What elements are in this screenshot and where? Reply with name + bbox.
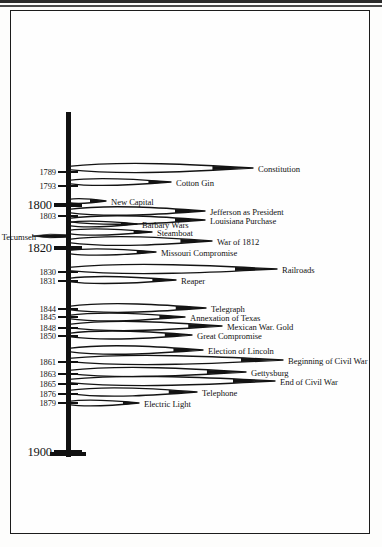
year-tick bbox=[58, 271, 78, 273]
year-label: 1793 bbox=[20, 182, 56, 191]
year-tick bbox=[58, 280, 78, 282]
year-label: 1879 bbox=[20, 399, 56, 408]
event-label: Constitution bbox=[258, 165, 300, 174]
year-tick bbox=[58, 316, 78, 318]
year-tick bbox=[58, 185, 78, 187]
year-label: 1900 bbox=[8, 446, 52, 459]
year-label: 1861 bbox=[20, 358, 56, 367]
year-label: 1831 bbox=[20, 277, 56, 286]
year-tick bbox=[54, 203, 82, 206]
year-tick bbox=[54, 450, 82, 453]
event-label: Telephone bbox=[202, 389, 237, 398]
event-label: Tecumseh bbox=[2, 233, 36, 242]
event-label: Election of Lincoln bbox=[208, 347, 274, 356]
year-label: 1800 bbox=[8, 199, 52, 212]
year-label: 1803 bbox=[20, 212, 56, 221]
event-label: Beginning of Civil War bbox=[288, 357, 367, 366]
year-label: 1845 bbox=[20, 313, 56, 322]
scan-edge-top bbox=[0, 0, 382, 3]
year-tick bbox=[58, 327, 78, 329]
event-label: Cotton Gin bbox=[176, 179, 214, 188]
year-tick bbox=[58, 215, 78, 217]
event-label: Louisiana Purchase bbox=[210, 217, 276, 226]
event-label: Reaper bbox=[181, 277, 205, 286]
year-tick bbox=[54, 246, 82, 249]
year-tick bbox=[58, 402, 78, 404]
event-label: Railroads bbox=[282, 266, 315, 275]
year-label: 1850 bbox=[20, 332, 56, 341]
year-label: 1865 bbox=[20, 380, 56, 389]
year-label: 1830 bbox=[20, 268, 56, 277]
year-label: 1820 bbox=[8, 242, 52, 255]
year-tick bbox=[58, 171, 78, 173]
timeline-axis bbox=[66, 112, 71, 457]
year-tick bbox=[58, 383, 78, 385]
year-label: 1876 bbox=[20, 390, 56, 399]
event-label: Steamboat bbox=[157, 229, 193, 238]
event-label: Great Compromise bbox=[197, 332, 262, 341]
scan-edge-top-secondary bbox=[0, 5, 382, 7]
year-label: 1863 bbox=[20, 370, 56, 379]
year-tick bbox=[58, 373, 78, 375]
year-label: 1789 bbox=[20, 168, 56, 177]
year-tick bbox=[58, 361, 78, 363]
timeline-figure: 1789179318001803182018301831184418451848… bbox=[0, 0, 382, 547]
year-tick bbox=[58, 308, 78, 310]
year-tick bbox=[58, 335, 78, 337]
event-label: Missouri Compromise bbox=[161, 249, 237, 258]
year-tick bbox=[58, 393, 78, 395]
event-label: Electric Light bbox=[144, 400, 191, 409]
event-label: War of 1812 bbox=[217, 238, 259, 247]
event-label: End of Civil War bbox=[280, 378, 338, 387]
event-label: New Capital bbox=[111, 198, 154, 207]
